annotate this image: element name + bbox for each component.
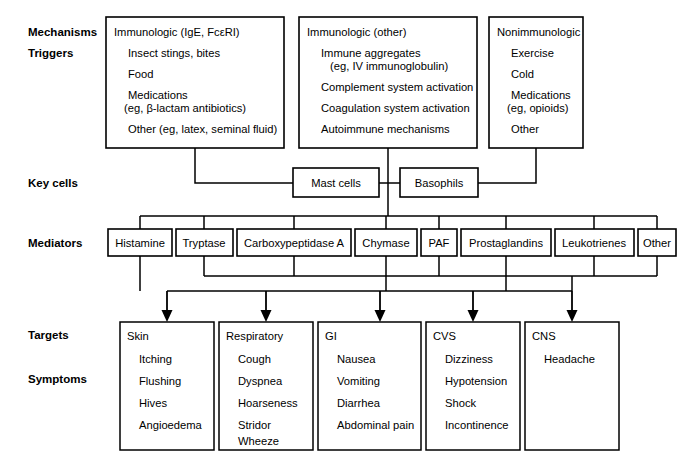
- target-heading-respiratory: Respiratory: [226, 330, 284, 342]
- arrowhead-respiratory: [261, 310, 272, 322]
- mechanism-box-immunologic-ige-heading: Immunologic (IgE, FcεRI): [114, 26, 240, 38]
- symptom-gi-abdominal-pain: Abdominal pain: [337, 419, 414, 431]
- mechanism-item-other-latex: Other (eg, latex, seminal fluid): [128, 123, 278, 135]
- target-box-cns[interactable]: CNS Headache: [525, 322, 619, 450]
- connectors-mediators-to-targets: [140, 256, 657, 322]
- symptom-respiratory-wheeze: Wheeze: [238, 435, 279, 447]
- mechanism-item-medications-opioids-sub: (eg, opioids): [507, 102, 569, 114]
- mediator-label-prostaglandins: Prostaglandins: [469, 237, 543, 249]
- mediator-box-paf[interactable]: PAF: [421, 229, 457, 256]
- arrowhead-cvs: [468, 310, 479, 322]
- row-label-mechanisms: Mechanisms: [28, 26, 97, 38]
- target-box-skin[interactable]: Skin Itching Flushing Hives Angioedema: [120, 322, 214, 450]
- row-label-triggers: Triggers: [28, 47, 73, 59]
- symptom-skin-itching: Itching: [139, 353, 172, 365]
- connectors-cells-to-mediators: [140, 216, 657, 229]
- connector-immunologic-ige-to-mast-cells: [195, 148, 293, 183]
- mediator-box-histamine[interactable]: Histamine: [108, 229, 172, 256]
- row-label-key-cells: Key cells: [28, 177, 78, 189]
- mechanism-item-food: Food: [128, 68, 154, 80]
- target-heading-cvs: CVS: [433, 330, 456, 342]
- mechanism-item-insect-stings: Insect stings, bites: [128, 47, 220, 59]
- target-box-gi[interactable]: GI Nausea Vomiting Diarrhea Abdominal pa…: [318, 322, 421, 450]
- mediator-label-other: Other: [643, 237, 671, 249]
- arrowhead-cns: [567, 310, 578, 322]
- mechanism-item-exercise: Exercise: [511, 47, 554, 59]
- symptom-cns-headache: Headache: [544, 353, 595, 365]
- symptom-skin-flushing: Flushing: [139, 375, 181, 387]
- arrowhead-skin: [162, 310, 173, 322]
- arrowhead-gi: [375, 310, 386, 322]
- symptom-skin-hives: Hives: [139, 397, 167, 409]
- symptom-gi-nausea: Nausea: [337, 353, 376, 365]
- key-cell-label-basophils: Basophils: [415, 177, 464, 189]
- mechanism-item-other: Other: [511, 123, 539, 135]
- mediator-box-leukotrienes[interactable]: Leukotrienes: [555, 229, 634, 256]
- mechanism-boxes-group: Immunologic (IgE, FcεRI) Insect stings, …: [106, 17, 583, 148]
- mechanism-box-nonimmunologic-heading: Nonimmunologic: [497, 26, 581, 38]
- mechanism-item-medications-opioids: Medications: [511, 89, 571, 101]
- mechanism-box-immunologic-ige[interactable]: Immunologic (IgE, FcεRI) Insect stings, …: [106, 17, 284, 148]
- key-cell-box-mast-cells[interactable]: Mast cells: [293, 168, 379, 197]
- symptom-respiratory-hoarseness: Hoarseness: [238, 397, 298, 409]
- row-labels-group: Mechanisms Triggers Key cells Mediators …: [28, 26, 97, 385]
- mediator-boxes-group: Histamine Tryptase Carboxypeptidase A Ch…: [108, 229, 676, 256]
- mediator-box-other[interactable]: Other: [638, 229, 676, 256]
- symptom-respiratory-dyspnea: Dyspnea: [238, 375, 283, 387]
- mediator-label-tryptase: Tryptase: [182, 237, 225, 249]
- key-cell-box-basophils[interactable]: Basophils: [400, 168, 478, 197]
- connector-nonimmunologic-to-basophils: [478, 148, 536, 183]
- mediator-label-histamine: Histamine: [115, 237, 165, 249]
- mediator-box-carboxypeptidase-a[interactable]: Carboxypeptidase A: [237, 229, 351, 256]
- row-label-symptoms: Symptoms: [28, 373, 87, 385]
- mediator-label-paf: PAF: [429, 237, 450, 249]
- target-box-respiratory[interactable]: Respiratory Cough Dyspnea Hoarseness Str…: [219, 322, 313, 450]
- mechanism-item-autoimmune-mechanisms: Autoimmune mechanisms: [321, 123, 450, 135]
- row-label-mediators: Mediators: [28, 237, 82, 249]
- symptom-cvs-hypotension: Hypotension: [445, 375, 507, 387]
- mechanism-item-immune-aggregates: Immune aggregates: [321, 47, 421, 59]
- mediator-label-leukotrienes: Leukotrienes: [562, 237, 626, 249]
- row-label-targets: Targets: [28, 329, 69, 341]
- symptom-skin-angioedema: Angioedema: [139, 419, 203, 431]
- mediator-label-carboxypeptidase-a: Carboxypeptidase A: [244, 237, 345, 249]
- mechanism-box-nonimmunologic[interactable]: Nonimmunologic Exercise Cold Medications…: [489, 17, 583, 148]
- anaphylaxis-diagram: Mechanisms Triggers Key cells Mediators …: [0, 0, 683, 467]
- mediator-box-tryptase[interactable]: Tryptase: [176, 229, 233, 256]
- target-heading-skin: Skin: [127, 330, 149, 342]
- mechanism-item-cold: Cold: [511, 68, 534, 80]
- symptom-respiratory-stridor: Stridor: [238, 419, 271, 431]
- symptom-cvs-incontinence: Incontinence: [445, 419, 508, 431]
- mechanism-item-immune-aggregates-sub: (eg, IV immunoglobulin): [330, 60, 448, 72]
- target-box-cvs[interactable]: CVS Dizziness Hypotension Shock Incontin…: [426, 322, 520, 450]
- symptom-gi-vomiting: Vomiting: [337, 375, 380, 387]
- symptom-respiratory-cough: Cough: [238, 353, 271, 365]
- target-heading-cns: CNS: [532, 330, 556, 342]
- target-heading-gi: GI: [325, 330, 337, 342]
- symptom-cvs-shock: Shock: [445, 397, 476, 409]
- mediator-box-prostaglandins[interactable]: Prostaglandins: [461, 229, 551, 256]
- mechanism-item-medications: Medications: [128, 89, 188, 101]
- target-boxes-group: Skin Itching Flushing Hives Angioedema R…: [120, 322, 619, 450]
- key-cell-label-mast-cells: Mast cells: [311, 177, 361, 189]
- diagram-canvas: Mechanisms Triggers Key cells Mediators …: [0, 0, 683, 467]
- mechanism-item-medications-sub: (eg, β-lactam antibiotics): [124, 102, 246, 114]
- mechanism-box-immunologic-other[interactable]: Immunologic (other) Immune aggregates (e…: [299, 17, 477, 148]
- symptom-gi-diarrhea: Diarrhea: [337, 397, 381, 409]
- mediator-box-chymase[interactable]: Chymase: [355, 229, 417, 256]
- mediator-label-chymase: Chymase: [362, 237, 409, 249]
- symptom-cvs-dizziness: Dizziness: [445, 353, 493, 365]
- mechanism-box-immunologic-other-heading: Immunologic (other): [307, 26, 407, 38]
- mechanism-item-complement-activation: Complement system activation: [321, 81, 473, 93]
- mechanism-item-coagulation-activation: Coagulation system activation: [321, 102, 470, 114]
